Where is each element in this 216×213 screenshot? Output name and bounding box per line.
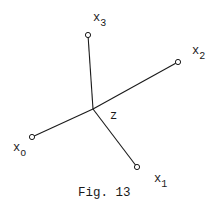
node-x3 (85, 32, 90, 37)
node-x2 (175, 59, 180, 64)
label-x2: x2 (192, 45, 205, 57)
figure-caption: Fig. 13 (78, 186, 131, 200)
label-x0: xo (13, 142, 26, 154)
edge-z-x0 (32, 109, 93, 137)
node-x1 (134, 164, 139, 169)
label-x3-sub: 3 (100, 18, 106, 29)
edge-z-x2 (93, 62, 178, 109)
label-x2-sub: 2 (199, 51, 205, 62)
edge-z-x3 (88, 35, 93, 109)
label-x0-sub: o (20, 148, 26, 159)
label-z-text: z (110, 109, 117, 123)
label-z: z (110, 110, 117, 122)
label-x3: x3 (93, 12, 106, 24)
star-graph-diagram (0, 0, 216, 213)
node-x0 (29, 134, 34, 139)
label-x1-sub: 1 (161, 179, 167, 190)
label-x1: x1 (154, 173, 167, 185)
